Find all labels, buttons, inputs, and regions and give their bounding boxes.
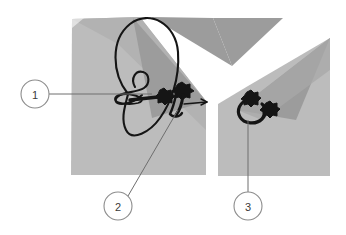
callout-1-label: 1 [32,89,38,101]
callout-3-label: 3 [245,201,251,213]
figure-container: 1 2 3 [0,0,346,235]
callout-1[interactable]: 1 [21,80,49,108]
illustration-svg: 1 2 3 [0,0,346,235]
callout-2-label: 2 [115,201,121,213]
callout-3[interactable]: 3 [234,192,262,220]
callout-2[interactable]: 2 [104,192,132,220]
